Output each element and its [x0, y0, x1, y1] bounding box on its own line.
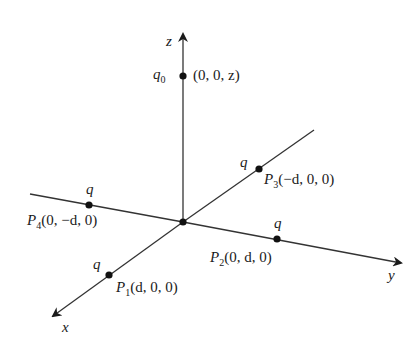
- p1-label: P1(d, 0, 0): [116, 280, 178, 298]
- z-axis-label: z: [166, 34, 172, 49]
- p2-charge-label: q: [274, 216, 282, 231]
- x-axis-line: [53, 222, 183, 316]
- q0-charge-label: q0: [153, 67, 166, 85]
- p1-dot: [105, 271, 112, 278]
- p3-charge-label: q: [240, 155, 248, 170]
- q0-coords: (0, 0, z): [193, 68, 240, 83]
- origin-dot: [179, 218, 186, 225]
- p3-dot: [255, 165, 262, 172]
- p2-dot: [273, 235, 280, 242]
- x-axis-label: x: [62, 320, 69, 335]
- p2-label: P2(0, d, 0): [210, 250, 272, 268]
- p3-label: P3(−d, 0, 0): [264, 172, 334, 190]
- diagram-canvas: z y x q0 (0, 0, z) q P1(d, 0, 0) q P2(0,…: [0, 0, 420, 348]
- p4-charge-label: q: [86, 182, 94, 197]
- q0-dot: [179, 72, 186, 79]
- y-axis-label: y: [388, 268, 395, 283]
- p4-dot: [85, 201, 92, 208]
- p4-label: P4(0, −d, 0): [27, 213, 97, 231]
- p1-charge-label: q: [93, 257, 101, 272]
- axes-drawing: [0, 0, 420, 348]
